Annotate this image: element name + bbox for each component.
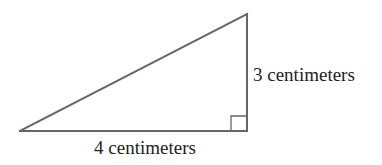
hypotenuse-edge <box>20 14 247 131</box>
right-angle-marker <box>231 116 247 131</box>
horizontal-leg-label: 4 centimeters <box>94 137 196 158</box>
right-triangle-figure: 3 centimeters 4 centimeters <box>0 0 382 165</box>
vertical-leg-label: 3 centimeters <box>253 64 355 85</box>
